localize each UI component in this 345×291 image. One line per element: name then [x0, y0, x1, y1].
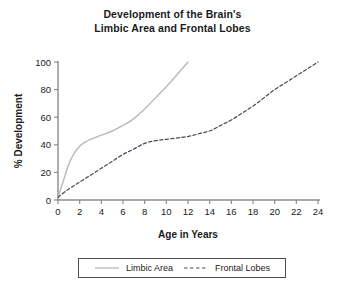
legend-label-frontal-lobes: Frontal Lobes	[215, 263, 270, 273]
y-tick-label: 40	[40, 139, 51, 150]
y-tick-label: 100	[35, 57, 51, 68]
chart-legend: Limbic Area Frontal Lobes	[78, 258, 286, 278]
legend-label-limbic-area: Limbic Area	[126, 263, 173, 273]
x-tick-label: 10	[161, 206, 172, 217]
x-tick-label: 22	[291, 206, 302, 217]
legend-swatch-dashed-icon	[183, 264, 209, 272]
x-tick-label: 8	[142, 206, 147, 217]
x-tick-label: 18	[248, 206, 259, 217]
legend-swatch-solid-icon	[94, 264, 120, 272]
x-tick-label: 24	[313, 206, 324, 217]
y-axis-label: % Development	[13, 93, 24, 168]
x-tick-label: 12	[183, 206, 194, 217]
x-tick-label: 16	[226, 206, 237, 217]
y-tick-label: 0	[46, 195, 51, 206]
legend-item-frontal-lobes: Frontal Lobes	[183, 263, 270, 273]
legend-item-limbic-area: Limbic Area	[94, 263, 173, 273]
x-tick-label: 4	[99, 206, 104, 217]
x-tick-label: 20	[269, 206, 280, 217]
x-axis-label: Age in Years	[158, 229, 218, 240]
y-tick-label: 60	[40, 112, 51, 123]
y-tick-label: 20	[40, 167, 51, 178]
x-tick-label: 0	[55, 206, 60, 217]
series-line-frontal-lobes	[58, 62, 318, 197]
x-tick-label: 2	[77, 206, 82, 217]
x-tick-label: 6	[120, 206, 125, 217]
chart-plot-area: 020406080100024681012141618202224 Age in…	[0, 0, 345, 291]
series-line-limbic-area	[58, 62, 188, 197]
y-tick-label: 80	[40, 84, 51, 95]
chart-figure: Development of the Brain's Limbic Area a…	[0, 0, 345, 291]
x-tick-label: 14	[204, 206, 215, 217]
